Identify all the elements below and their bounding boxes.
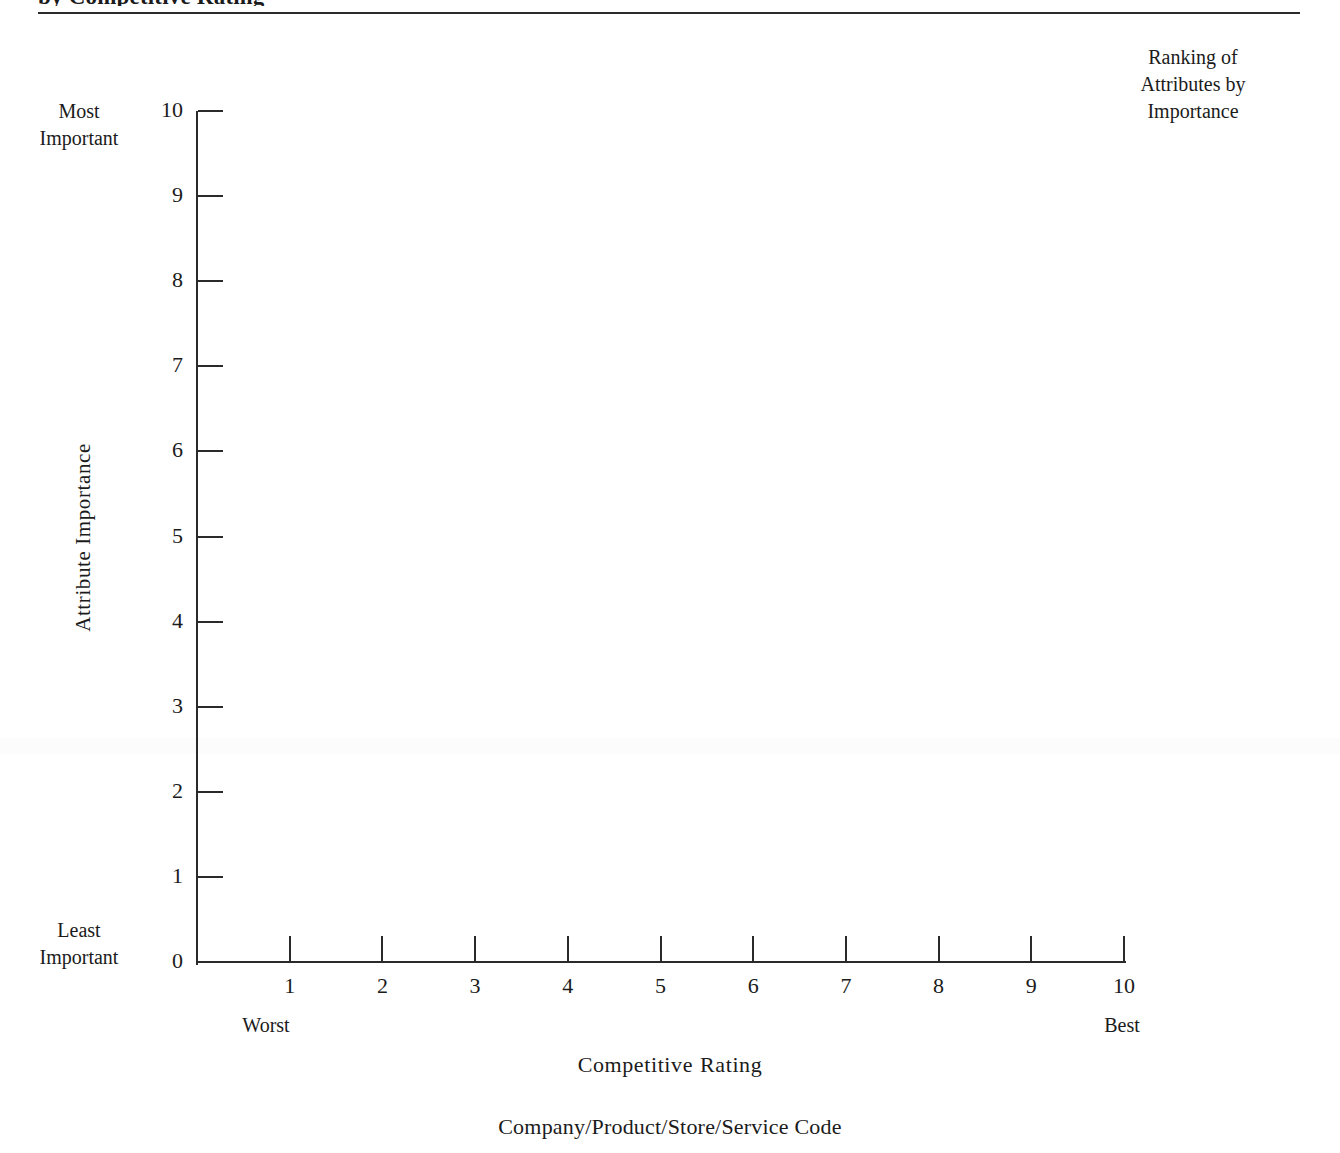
y-tick-7: [198, 365, 223, 367]
y-axis-high-label: Most Important: [14, 98, 144, 152]
y-tick-label-9: 9: [143, 184, 183, 206]
y-tick-5: [198, 536, 223, 538]
plot-area[interactable]: [198, 111, 1126, 961]
header-rule: [38, 12, 1300, 14]
x-tick-label-9: 9: [1011, 975, 1051, 997]
y-tick-label-6: 6: [143, 439, 183, 461]
x-axis-title: CompetitiveRating: [0, 1052, 1340, 1078]
y-tick-label-8: 8: [143, 269, 183, 291]
y-tick-label-2: 2: [143, 780, 183, 802]
y-axis-high-label-line-1: Most: [14, 98, 144, 125]
y-tick-label-7: 7: [143, 354, 183, 376]
y-tick-9: [198, 195, 223, 197]
x-axis-high-label: Best: [1062, 1012, 1182, 1039]
x-tick-label-7: 7: [826, 975, 866, 997]
y-axis-line: [196, 111, 198, 965]
y-tick-label-3: 3: [143, 695, 183, 717]
bottom-caption: Company/Product/Store/Service Code: [0, 1114, 1340, 1140]
x-tick-4: [567, 936, 569, 961]
y-tick-8: [198, 280, 223, 282]
x-tick-label-10: 10: [1104, 975, 1144, 997]
y-tick-label-1: 1: [143, 865, 183, 887]
y-axis-low-label-line-2: Important: [14, 944, 144, 971]
x-axis-title-word-2: Rating: [693, 1052, 762, 1077]
x-tick-label-6: 6: [733, 975, 773, 997]
y-axis-title: Attribute Importance: [71, 408, 96, 668]
x-tick-label-4: 4: [548, 975, 588, 997]
y-axis-low-label: Least Important: [14, 917, 144, 971]
y-tick-1: [198, 876, 223, 878]
worksheet-page: by Competitive Rating Ranking of Attribu…: [0, 0, 1340, 1153]
x-tick-label-8: 8: [919, 975, 959, 997]
y-tick-6: [198, 450, 223, 452]
running-head: by Competitive Rating: [38, 0, 1288, 6]
y-tick-10: [198, 110, 223, 112]
x-tick-9: [1030, 936, 1032, 961]
y-axis-low-label-line-1: Least: [14, 917, 144, 944]
x-tick-6: [752, 936, 754, 961]
y-tick-label-5: 5: [143, 525, 183, 547]
x-tick-label-5: 5: [641, 975, 681, 997]
x-tick-2: [381, 936, 383, 961]
x-tick-1: [289, 936, 291, 961]
y-tick-label-4: 4: [143, 610, 183, 632]
x-tick-3: [474, 936, 476, 961]
x-tick-label-3: 3: [455, 975, 495, 997]
x-tick-7: [845, 936, 847, 961]
corner-caption-line-1: Ranking of: [1088, 44, 1298, 71]
y-tick-2: [198, 791, 223, 793]
x-axis-line: [196, 961, 1126, 963]
y-tick-4: [198, 621, 223, 623]
x-tick-10: [1123, 936, 1125, 961]
corner-caption-line-2: Attributes by: [1088, 71, 1298, 98]
x-axis-low-label: Worst: [206, 1012, 326, 1039]
y-axis-high-label-line-2: Important: [14, 125, 144, 152]
y-tick-3: [198, 706, 223, 708]
x-axis-title-word-1: Competitive: [578, 1052, 693, 1077]
y-tick-label-10: 10: [143, 99, 183, 121]
x-tick-5: [660, 936, 662, 961]
x-tick-label-1: 1: [270, 975, 310, 997]
x-tick-label-2: 2: [362, 975, 402, 997]
y-tick-label-0: 0: [143, 950, 183, 972]
x-tick-8: [938, 936, 940, 961]
